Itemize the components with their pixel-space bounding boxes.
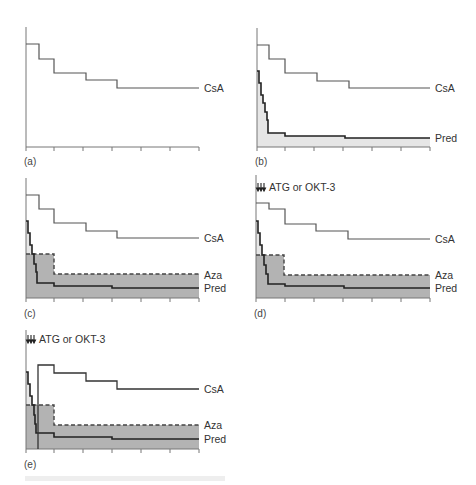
panel-label-e: (e) <box>24 459 36 470</box>
x-ticks <box>26 449 199 453</box>
x-ticks <box>26 298 199 302</box>
panel-a: CsA (a) <box>24 27 224 167</box>
atg-arrows-icon <box>27 335 36 343</box>
pred-label: Pred <box>204 282 226 294</box>
csa-label: CsA <box>204 232 224 244</box>
pred-fill <box>26 372 32 405</box>
x-ticks <box>257 147 430 151</box>
panel-label-d: (d) <box>254 308 266 319</box>
aza-label: Aza <box>204 269 222 281</box>
pred-fill <box>26 221 32 254</box>
pred-label: Pred <box>435 282 457 294</box>
aza-label: Aza <box>435 269 453 281</box>
atg-arrows-icon <box>257 183 266 191</box>
x-ticks <box>256 298 430 302</box>
atg-label: ATG or OKT-3 <box>39 333 105 345</box>
panel-b: CsA Pred (b) <box>255 28 457 167</box>
panel-e: ATG or OKT-3 CsA Aza Pred (e) <box>24 330 226 470</box>
csa-label: CsA <box>435 82 455 94</box>
csa-curve <box>26 195 199 238</box>
pred-label: Pred <box>435 132 457 144</box>
aza-fill <box>256 255 430 298</box>
panel-label-b: (b) <box>255 156 267 167</box>
csa-curve <box>257 45 430 88</box>
aza-fill <box>26 405 199 449</box>
faded-caption <box>25 476 225 481</box>
csa-curve <box>256 203 430 239</box>
aza-label: Aza <box>204 419 222 431</box>
csa-label: CsA <box>204 82 224 94</box>
pred-label: Pred <box>204 433 226 445</box>
panel-label-c: (c) <box>24 308 36 319</box>
x-ticks <box>26 147 199 151</box>
atg-label: ATG or OKT-3 <box>269 181 335 193</box>
csa-label: CsA <box>204 383 224 395</box>
panel-d: ATG or OKT-3 CsA Aza Pred (d) <box>254 175 457 319</box>
figure-canvas: CsA (a) CsA Pred (b) CsA <box>0 0 476 485</box>
csa-curve <box>26 44 199 88</box>
pred-fill <box>256 221 262 255</box>
csa-label: CsA <box>435 233 455 245</box>
panel-label-a: (a) <box>24 156 36 167</box>
aza-fill <box>26 254 199 298</box>
panel-c: CsA Aza Pred (c) <box>24 178 226 319</box>
